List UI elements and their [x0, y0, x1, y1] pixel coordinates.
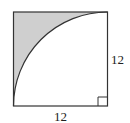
right-angle-marker — [98, 97, 108, 106]
shaded-region — [14, 12, 108, 106]
geometry-figure: 12 12 — [0, 0, 130, 123]
side-label-bottom: 12 — [54, 109, 67, 123]
side-label-right: 12 — [111, 52, 124, 67]
